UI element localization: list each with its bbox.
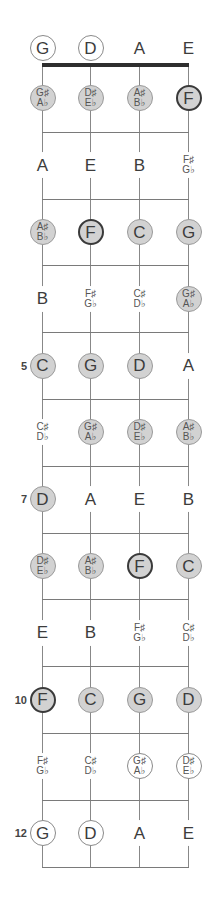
note-a-fret-6: D♯E♭ [127, 419, 153, 445]
note-label: D [182, 691, 194, 708]
fret-line-8 [42, 599, 189, 600]
note-a-fret-3: C [127, 219, 153, 245]
note-a-fret-5: D [127, 353, 153, 379]
note-a-fret-12: A [127, 820, 153, 846]
note-label: B♭ [37, 232, 48, 242]
note-e-fret-7: B [176, 486, 202, 512]
fret-line-7 [42, 533, 189, 534]
note-g-fret-5: C [30, 353, 56, 379]
note-label: D♭ [37, 432, 49, 442]
note-g-fret-0: G [30, 35, 56, 61]
note-g-fret-7: D [30, 486, 56, 512]
fret-line-11 [42, 800, 189, 801]
note-label: D [84, 40, 96, 57]
fret-line-5 [42, 399, 189, 400]
note-label: A [183, 357, 194, 374]
note-label: A♭ [134, 766, 145, 776]
note-e-fret-9: C♯D♭ [176, 620, 202, 646]
note-label: G [133, 691, 146, 708]
note-label: G♭ [36, 766, 49, 776]
note-label: G [36, 40, 49, 57]
fret-line-1 [42, 132, 189, 133]
fret-position-marker: 12 [15, 827, 27, 839]
note-d-fret-10: C [78, 687, 104, 713]
note-label: B [37, 290, 48, 307]
note-label: D♭ [183, 633, 195, 643]
note-a-fret-11: G♯A♭ [127, 753, 153, 779]
note-e-fret-0: E [176, 35, 202, 61]
fret-line-9 [42, 666, 189, 667]
note-label: B♭ [85, 566, 96, 576]
note-g-fret-3: A♯B♭ [30, 219, 56, 245]
note-g-fret-2: A [30, 152, 56, 178]
note-d-fret-6: G♯A♭ [78, 419, 104, 445]
note-a-fret-9: F♯G♭ [127, 620, 153, 646]
note-e-fret-11: D♯E♭ [176, 753, 202, 779]
note-g-fret-12: G [30, 820, 56, 846]
note-label: E [183, 40, 194, 57]
fret-position-marker: 10 [15, 694, 27, 706]
note-e-fret-12: E [176, 820, 202, 846]
note-label: E♭ [37, 566, 48, 576]
note-label: A [85, 491, 96, 508]
note-d-fret-1: D♯E♭ [78, 85, 104, 111]
fret-position-marker: 7 [21, 493, 27, 505]
note-g-fret-4: B [30, 286, 56, 312]
nut-bar [42, 63, 189, 67]
note-label: G♭ [84, 299, 97, 309]
note-label: C [182, 558, 194, 575]
note-a-fret-2: B [127, 152, 153, 178]
note-label: A [37, 157, 48, 174]
note-label: G♭ [133, 633, 146, 643]
note-a-fret-7: E [127, 486, 153, 512]
note-g-fret-6: C♯D♭ [30, 419, 56, 445]
note-e-fret-3: G [176, 219, 202, 245]
note-g-fret-10: F [30, 687, 56, 713]
note-label: A♭ [85, 432, 96, 442]
note-d-fret-8: A♯B♭ [78, 553, 104, 579]
fretboard-diagram: GDAEG♯A♭D♯E♭A♯B♭FAEBF♯G♭A♯B♭FCGBF♯G♭C♯D♭… [0, 0, 213, 900]
note-label: D♭ [85, 766, 97, 776]
note-a-fret-10: G [127, 687, 153, 713]
note-d-fret-5: G [78, 353, 104, 379]
note-label: B [183, 491, 194, 508]
note-label: G [36, 825, 49, 842]
note-d-fret-4: F♯G♭ [78, 286, 104, 312]
note-label: A [134, 40, 145, 57]
note-label: D♭ [134, 299, 146, 309]
note-e-fret-8: C [176, 553, 202, 579]
note-a-fret-1: A♯B♭ [127, 85, 153, 111]
note-e-fret-4: G♯A♭ [176, 286, 202, 312]
note-a-fret-4: C♯D♭ [127, 286, 153, 312]
note-label: G [182, 224, 195, 241]
note-label: B [134, 157, 145, 174]
note-label: F [85, 224, 95, 241]
note-e-fret-6: A♯B♭ [176, 419, 202, 445]
note-a-fret-0: A [127, 35, 153, 61]
note-label: F [134, 558, 144, 575]
note-label: B [85, 624, 96, 641]
fret-line-4 [42, 332, 189, 333]
fret-line-12 [42, 867, 189, 868]
note-label: E [37, 624, 48, 641]
note-d-fret-0: D [78, 35, 104, 61]
note-label: E♭ [85, 98, 96, 108]
note-d-fret-3: F [78, 219, 104, 245]
note-label: E♭ [134, 432, 145, 442]
note-label: E [85, 157, 96, 174]
note-label: D [133, 357, 145, 374]
note-label: B♭ [134, 98, 145, 108]
note-label: E♭ [183, 766, 194, 776]
note-e-fret-1: F [176, 85, 202, 111]
note-label: G [84, 357, 97, 374]
note-a-fret-8: F [127, 553, 153, 579]
note-label: C [84, 691, 96, 708]
note-label: C [36, 357, 48, 374]
note-label: F [37, 691, 47, 708]
fret-line-10 [42, 733, 189, 734]
fret-line-6 [42, 466, 189, 467]
note-g-fret-1: G♯A♭ [30, 85, 56, 111]
fret-line-2 [42, 199, 189, 200]
note-label: C [133, 224, 145, 241]
note-label: B♭ [183, 432, 194, 442]
